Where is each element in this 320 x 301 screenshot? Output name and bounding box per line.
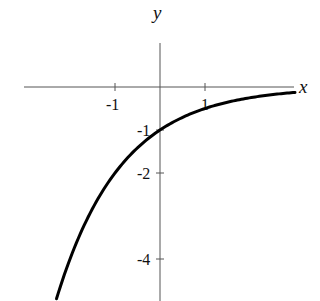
function-graph: -11 -1-2-4 x y bbox=[0, 0, 320, 301]
x-axis-label: x bbox=[298, 76, 308, 97]
y-axis-label: y bbox=[151, 2, 162, 23]
y-tick-label: -4 bbox=[137, 251, 150, 268]
function-curve bbox=[57, 92, 296, 298]
x-tick-label: -1 bbox=[106, 96, 119, 113]
y-tick-label: -1 bbox=[137, 122, 150, 139]
y-tick-label: -2 bbox=[137, 165, 150, 182]
